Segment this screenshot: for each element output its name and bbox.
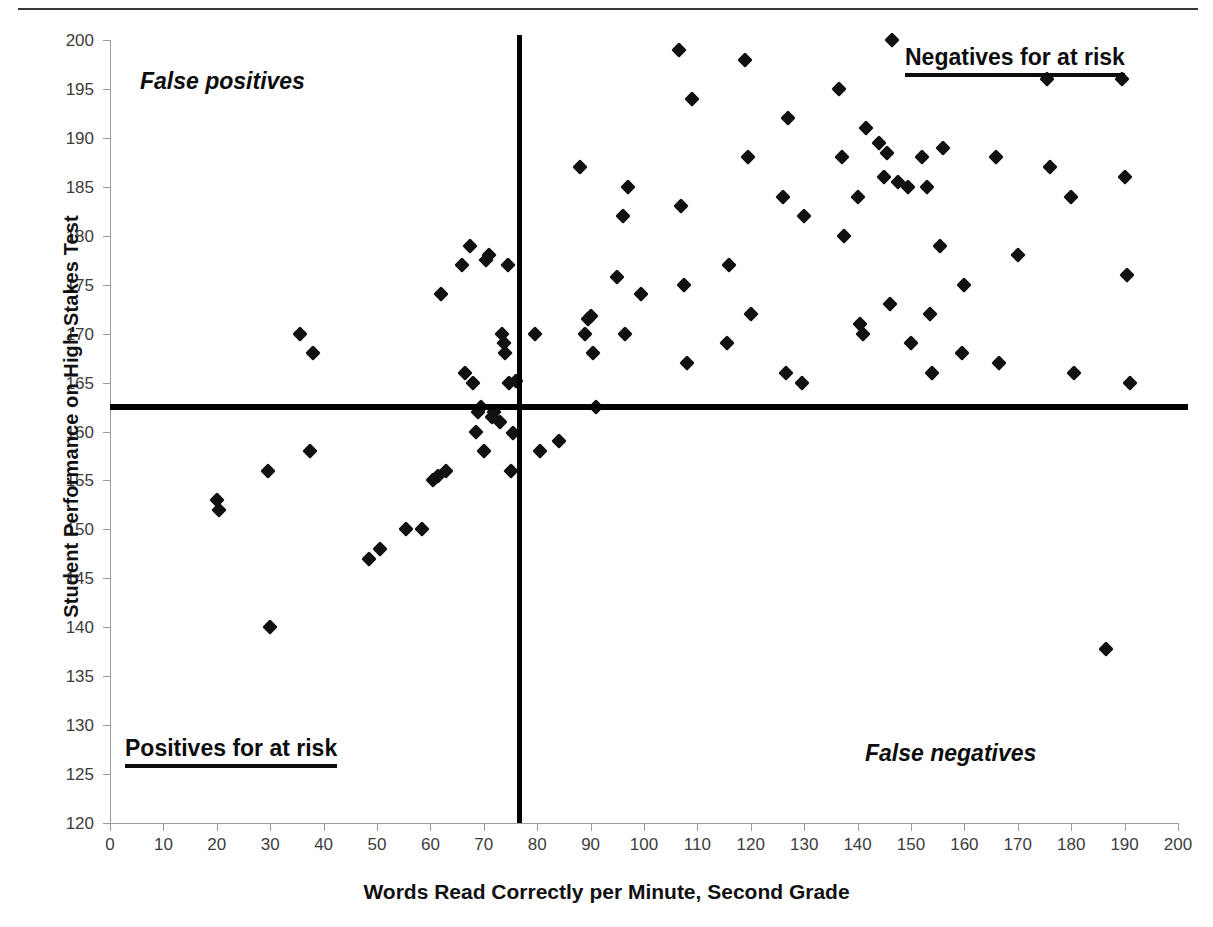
data-point-marker [925,365,941,381]
data-point-marker [954,345,970,361]
data-point-marker [743,306,759,322]
x-tick-label: 180 [1041,836,1101,853]
data-point-marker [775,189,791,205]
x-tick-label: 0 [80,836,140,853]
x-tick-label: 10 [133,836,193,853]
data-point-marker [991,355,1007,371]
data-point-marker [922,306,938,322]
scatter-plot-figure: 1201251301351401451501551601651701751801… [0,0,1213,927]
page-top-rule [18,8,1198,10]
x-tick-label: 110 [667,836,727,853]
x-tick-label: 50 [347,836,407,853]
x-tick-mark [324,823,325,831]
data-point-marker [989,150,1005,166]
x-tick-mark [804,823,805,831]
x-tick-label: 60 [400,836,460,853]
data-point-marker [1098,641,1114,657]
x-tick-mark [110,823,111,831]
y-tick-mark [103,676,111,677]
y-tick-mark [103,432,111,433]
data-point-marker [836,228,852,244]
data-point-marker [618,326,634,342]
x-tick-label: 140 [828,836,888,853]
quadrant-label-negatives-for-at-risk: Negatives for at risk [905,44,1125,77]
data-point-marker [476,443,492,459]
data-point-marker [615,208,631,224]
y-tick-mark [103,334,111,335]
data-point-marker [1010,248,1026,264]
y-tick-mark [103,578,111,579]
data-point-marker [468,424,484,440]
x-tick-mark [964,823,965,831]
x-tick-label: 150 [881,836,941,853]
y-tick-mark [103,40,111,41]
data-point-marker [674,199,690,215]
data-point-marker [399,522,415,538]
data-point-marker [620,179,636,195]
x-tick-label: 190 [1095,836,1155,853]
data-point-marker [671,42,687,58]
y-tick-mark [103,89,111,90]
x-tick-label: 20 [187,836,247,853]
y-tick-mark [103,480,111,481]
x-tick-mark [1178,823,1179,831]
data-point-marker [361,551,377,567]
data-point-marker [834,150,850,166]
data-point-marker [302,443,318,459]
y-tick-mark [103,236,111,237]
data-point-marker [935,140,951,156]
x-tick-label: 70 [454,836,514,853]
data-point-marker [455,257,471,273]
data-point-marker [1117,169,1133,185]
x-axis-title: Words Read Correctly per Minute, Second … [0,880,1213,904]
x-tick-label: 200 [1148,836,1208,853]
x-tick-label: 160 [934,836,994,853]
data-point-marker [778,365,794,381]
data-point-marker [885,32,901,48]
data-point-marker [719,336,735,352]
data-point-marker [679,355,695,371]
data-point-marker [1119,267,1135,283]
data-point-marker [572,159,588,175]
y-tick-mark [103,627,111,628]
x-tick-label: 170 [988,836,1048,853]
x-tick-mark [430,823,431,831]
data-point-marker [684,91,700,107]
y-tick-mark [103,383,111,384]
x-tick-mark [591,823,592,831]
x-tick-label: 100 [614,836,674,853]
data-point-marker [433,287,449,303]
data-point-marker [882,296,898,312]
data-point-marker [463,238,479,254]
x-tick-label: 30 [240,836,300,853]
data-point-marker [796,208,812,224]
y-tick-mark [103,725,111,726]
data-point-marker [372,541,388,557]
vertical-threshold-line [517,35,522,823]
x-tick-mark [1018,823,1019,831]
data-point-marker [262,619,278,635]
x-tick-mark [1125,823,1126,831]
data-point-marker [634,287,650,303]
data-point-marker [610,269,626,285]
data-point-marker [551,434,567,450]
data-point-marker [497,345,513,361]
y-tick-mark [103,529,111,530]
quadrant-label-positives-for-at-risk: Positives for at risk [125,735,337,768]
data-point-marker [415,522,431,538]
x-tick-mark [644,823,645,831]
y-tick-mark [103,138,111,139]
data-point-marker [738,52,754,68]
data-point-marker [305,345,321,361]
data-point-marker [527,326,543,342]
data-point-marker [292,326,308,342]
data-point-marker [722,257,738,273]
data-point-marker [500,257,516,273]
x-tick-mark [484,823,485,831]
y-axis-title: Student Performance on High-Stakes Test [60,67,83,767]
data-point-marker [1122,375,1138,391]
x-tick-mark [217,823,218,831]
x-tick-mark [270,823,271,831]
quadrant-label-false-positives: False positives [140,68,305,95]
x-tick-label: 130 [774,836,834,853]
